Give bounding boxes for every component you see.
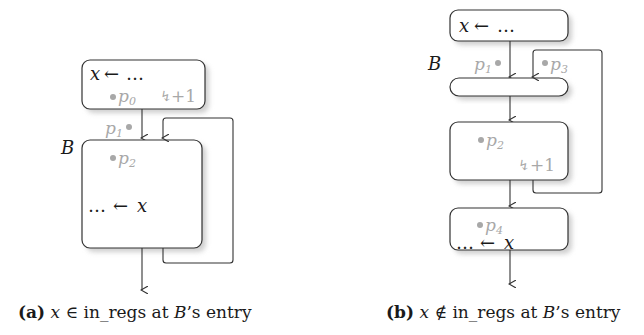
spill-count: +1 xyxy=(530,155,555,175)
assign-rhs: … xyxy=(497,15,515,36)
use-lhs: … xyxy=(456,232,474,253)
program-point-p3: p3 xyxy=(550,54,568,76)
block-b-top: x ← … xyxy=(450,10,572,45)
use-rhs: x xyxy=(137,195,147,216)
program-point-dot xyxy=(477,222,483,228)
program-point-dot xyxy=(478,137,484,143)
block-label-B: B xyxy=(427,53,441,74)
use-arrow: ← xyxy=(113,195,128,216)
assign-rhs: … xyxy=(126,63,144,84)
program-point-p1: p1 xyxy=(474,54,492,76)
spill-icon: ↯ xyxy=(160,88,172,104)
use-rhs: x xyxy=(504,232,514,253)
spill-icon: ↯ xyxy=(518,157,530,173)
spill-count: +1 xyxy=(171,86,196,106)
assign-arrow: ← xyxy=(474,15,489,36)
block-label-B: B xyxy=(60,137,74,158)
block-b-middle: p2 ↯ +1 xyxy=(450,122,572,184)
use-lhs: … xyxy=(88,195,106,216)
program-point-dot xyxy=(126,124,132,130)
program-point-dot xyxy=(495,60,501,66)
program-point-dot xyxy=(110,94,116,100)
assign-arrow: ← xyxy=(104,63,119,84)
program-point-dot xyxy=(542,60,548,66)
block-b-bottom: p4 … ← x xyxy=(450,208,572,254)
diagram-canvas: x ← … p0 ↯ +1 p1 B p2 … ← x ( xyxy=(0,0,644,335)
program-point-dot xyxy=(110,155,116,161)
figure-a: x ← … p0 ↯ +1 p1 B p2 … ← x ( xyxy=(18,60,252,322)
block-a-top: x ← … p0 ↯ +1 xyxy=(82,60,209,113)
block-a-B: p2 … ← x xyxy=(82,140,206,252)
caption-a: (a) x ∈ in_regs at B’s entry xyxy=(18,302,252,322)
caption-b: (b) x ∉ in_regs at B’s entry xyxy=(386,302,621,322)
assign-lhs: x xyxy=(90,63,100,84)
program-point-p1: p1 xyxy=(105,118,123,140)
assign-lhs: x xyxy=(459,15,469,36)
block-b-B xyxy=(450,78,572,100)
use-arrow: ← xyxy=(480,232,495,253)
figure-b: x ← … B p1 p3 p2 ↯ +1 xyxy=(386,10,621,322)
